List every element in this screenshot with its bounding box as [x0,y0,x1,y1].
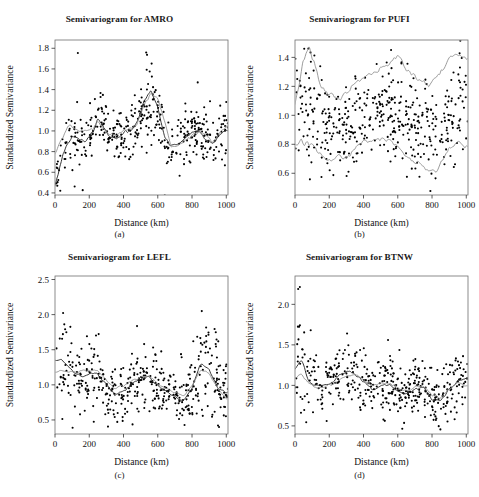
scatter-point [381,114,383,116]
scatter-point [460,362,462,364]
y-tick-label: 1.5 [278,340,290,350]
scatter-point [63,374,65,376]
scatter-point [145,51,147,53]
scatter-point [366,137,368,139]
scatter-point [431,405,433,407]
scatter-point [300,412,302,414]
scatter-point [126,411,128,413]
scatter-point [412,77,414,79]
scatter-point [150,144,152,146]
scatter-point [461,396,463,398]
scatter-point [321,402,323,404]
scatter-point [91,375,93,377]
scatter-point [125,117,127,119]
scatter-point [357,397,359,399]
scatter-point [458,79,460,81]
scatter-point [73,126,75,128]
scatter-point [83,146,85,148]
scatter-point [141,146,143,148]
scatter-point [430,414,432,416]
scatter-point [368,125,370,127]
scatter-point [173,374,175,376]
scatter-point [342,352,344,354]
scatter-point [424,376,426,378]
scatter-point [86,397,88,399]
scatter-point [456,411,458,413]
scatter-point [325,123,327,125]
scatter-point [163,111,165,113]
scatter-point [204,147,206,149]
scatter-point [88,343,90,345]
scatter-point [152,347,154,349]
scatter-point [392,131,394,133]
scatter-point [382,402,384,404]
scatter-point [431,95,433,97]
scatter-point [400,81,402,83]
scatter-point [449,364,451,366]
scatter-point [371,407,373,409]
scatter-point [380,403,382,405]
scatter-point [356,140,358,142]
scatter-point [92,405,94,407]
scatter-point [189,378,191,380]
scatter-point [463,368,465,370]
scatter-point [339,130,341,132]
scatter-point [464,396,466,398]
scatter-point [95,133,97,135]
scatter-point [171,151,173,153]
scatter-point [78,163,80,165]
scatter-point [127,391,129,393]
scatter-point [407,123,409,125]
scatter-point [116,421,118,423]
scatter-point [157,379,159,381]
scatter-point [380,367,382,369]
scatter-point [225,363,227,365]
scatter-point [410,146,412,148]
scatter-point [427,120,429,122]
scatter-point [342,138,344,140]
scatter-point [449,155,451,157]
scatter-point [356,152,358,154]
scatter-point [166,162,168,164]
scatter-point [459,66,461,68]
scatter-point [451,97,453,99]
scatter-point [453,115,455,117]
scatter-point [379,96,381,98]
scatter-point [103,139,105,141]
scatter-point [181,385,183,387]
scatter-point [304,121,306,123]
scatter-point [347,116,349,118]
scatter-point [355,78,357,80]
scatter-point [372,395,374,397]
scatter-point [318,93,320,95]
scatter-point [307,113,309,115]
scatter-point [401,399,403,401]
scatter-point [457,73,459,75]
scatter-point [390,114,392,116]
scatter-point [181,414,183,416]
scatter-point [107,412,109,414]
scatter-point [371,372,373,374]
scatter-point [361,360,363,362]
scatter-point [207,405,209,407]
scatter-point [369,396,371,398]
scatter-point [453,373,455,375]
scatter-point [163,395,165,397]
scatter-point [204,393,206,395]
scatter-point [80,119,82,121]
scatter-point [345,107,347,109]
scatter-point [176,409,178,411]
x-tick-label: 400 [117,200,131,210]
scatter-point [122,146,124,148]
y-tick-label: 1.2 [278,82,289,92]
scatter-point [442,141,444,143]
scatter-point [153,360,155,362]
scatter-point [354,102,356,104]
scatter-point [438,386,440,388]
scatter-point [329,169,331,171]
scatter-point [377,393,379,395]
scatter-point [146,105,148,107]
scatter-point [451,397,453,399]
scatter-point [395,113,397,115]
scatter-point [152,399,154,401]
